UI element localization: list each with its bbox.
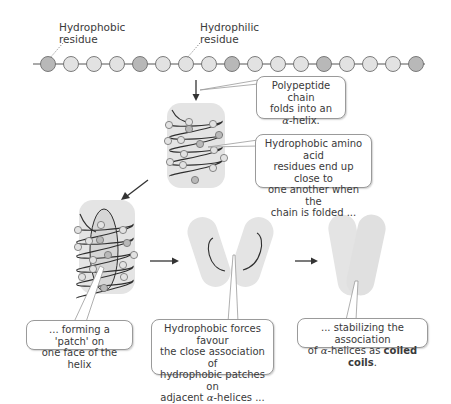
hydrophilic-pointer — [187, 43, 200, 58]
hydrophobic-label-line2: residue — [59, 33, 125, 45]
hydrophilic-residue — [179, 57, 194, 72]
hydrophobic-residue — [123, 239, 130, 246]
hydrophilic-residue — [185, 118, 192, 125]
diagonal-arrow-icon — [121, 180, 148, 200]
hydrophobic-residue — [133, 57, 148, 72]
callout-text: adjacent α-helices ... — [157, 392, 268, 404]
hydrophilic-residue — [180, 150, 187, 157]
callout-text: Hydrophobic amino acid — [261, 138, 366, 161]
hydrophilic-residue — [97, 221, 104, 228]
callout-text: residues end up close to — [261, 161, 366, 184]
hydrophobic-residue — [196, 140, 203, 147]
hydrophilic-residue — [85, 237, 92, 244]
callout-text: of — [308, 345, 321, 356]
hydrophilic-residue — [202, 57, 217, 72]
hydrophilic-residue — [130, 251, 137, 258]
hydrophilic-residue — [248, 57, 263, 72]
hydrophilic-residue — [74, 226, 81, 233]
hydrophobic-residue — [100, 284, 107, 291]
hydrophobic-residue — [96, 236, 103, 243]
callout-text: . — [374, 357, 377, 368]
helix-with-patch — [74, 200, 137, 298]
hydrophilic-residue — [210, 146, 217, 153]
hydrophobic-label-line1: Hydrophobic — [59, 21, 125, 33]
alpha-symbol: α — [207, 392, 214, 403]
callout-text: chain is folded ... — [261, 207, 366, 219]
callout-text: of α-helices as coiled coils. — [303, 345, 422, 368]
hydrophilic-residue — [165, 121, 172, 128]
callout-text: -helix. — [289, 115, 320, 126]
hydrophobic-residue — [317, 57, 332, 72]
callout-text: α-helix. — [262, 115, 340, 127]
hydrophobic-residue — [215, 131, 222, 138]
hydrophilic-residue — [340, 57, 355, 72]
callout-text: adjacent — [160, 392, 206, 403]
callout-close: Hydrophobic amino acid residues end up c… — [255, 134, 372, 188]
hydrophilic-residue — [166, 158, 173, 165]
hydrophobic-residue — [409, 57, 424, 72]
callout-text: ... forming a 'patch' on — [32, 324, 127, 347]
callout-stabilize: ... stabilizing the association of α-hel… — [297, 318, 428, 348]
hydrophilic-residue — [220, 154, 227, 161]
hydrophilic-residue — [74, 243, 81, 250]
hydrophilic-residue — [294, 57, 309, 72]
callout-text: hydrophobic patches on — [157, 369, 268, 392]
residue-chain — [41, 57, 424, 72]
hydrophilic-residue — [119, 226, 126, 233]
callout-fold: Polypeptide chain folds into an α-helix. — [256, 76, 346, 119]
alpha-symbol: α — [282, 115, 289, 126]
callout-text: -helices as — [327, 345, 383, 356]
hydrophilic-residue-label: Hydrophilic residue — [200, 21, 259, 45]
hydrophilic-residue — [177, 136, 184, 143]
hydrophilic-label-line2: residue — [200, 33, 259, 45]
hydrophobic-residue — [191, 176, 198, 183]
callout-patch: ... forming a 'patch' on one face of the… — [26, 320, 133, 350]
callout-forces: Hydrophobic forces favour the close asso… — [151, 319, 274, 375]
callout-text: ... stabilizing the association — [303, 322, 422, 345]
callout-text: folds into an — [262, 103, 340, 115]
callout-text: the close association of — [157, 346, 268, 369]
down-arrow-icon — [193, 80, 200, 101]
hydrophobic-residue — [41, 57, 56, 72]
hydrophobic-residue-label: Hydrophobic residue — [59, 21, 125, 45]
hydrophilic-residue — [110, 57, 125, 72]
callout-text: one face of the helix — [32, 347, 127, 370]
two-helices-v — [184, 213, 278, 291]
hydrophilic-residue — [156, 57, 171, 72]
hydrophilic-residue — [164, 137, 171, 144]
hydrophilic-label-line1: Hydrophilic — [200, 21, 259, 33]
hydrophilic-residue — [87, 57, 102, 72]
callout-text: -helices ... — [214, 392, 265, 403]
callout-fold-pointer — [200, 80, 258, 90]
right-arrow-icon — [150, 258, 179, 265]
hydrophilic-residue — [89, 256, 96, 263]
hydrophilic-residue — [179, 161, 186, 168]
hydrophobic-pointer — [50, 43, 63, 58]
hydrophilic-residue — [64, 57, 79, 72]
right-arrow-icon — [295, 258, 318, 265]
hydrophilic-residue — [209, 164, 216, 171]
hydrophobic-residue — [104, 251, 111, 258]
callout-text: Polypeptide chain — [262, 80, 340, 103]
hydrophilic-residue — [209, 120, 216, 127]
hydrophilic-residue — [271, 57, 286, 72]
hydrophilic-residue — [363, 57, 378, 72]
hydrophilic-residue — [120, 273, 127, 280]
hydrophilic-residue — [119, 261, 126, 268]
callout-text: Hydrophobic forces favour — [157, 323, 268, 346]
hydrophobic-residue — [225, 57, 240, 72]
hydrophilic-residue — [89, 265, 96, 272]
hydrophilic-residue — [386, 57, 401, 72]
callout-text: one another when the — [261, 184, 366, 207]
hydrophilic-residue — [78, 273, 85, 280]
hydrophobic-residue — [185, 125, 192, 132]
